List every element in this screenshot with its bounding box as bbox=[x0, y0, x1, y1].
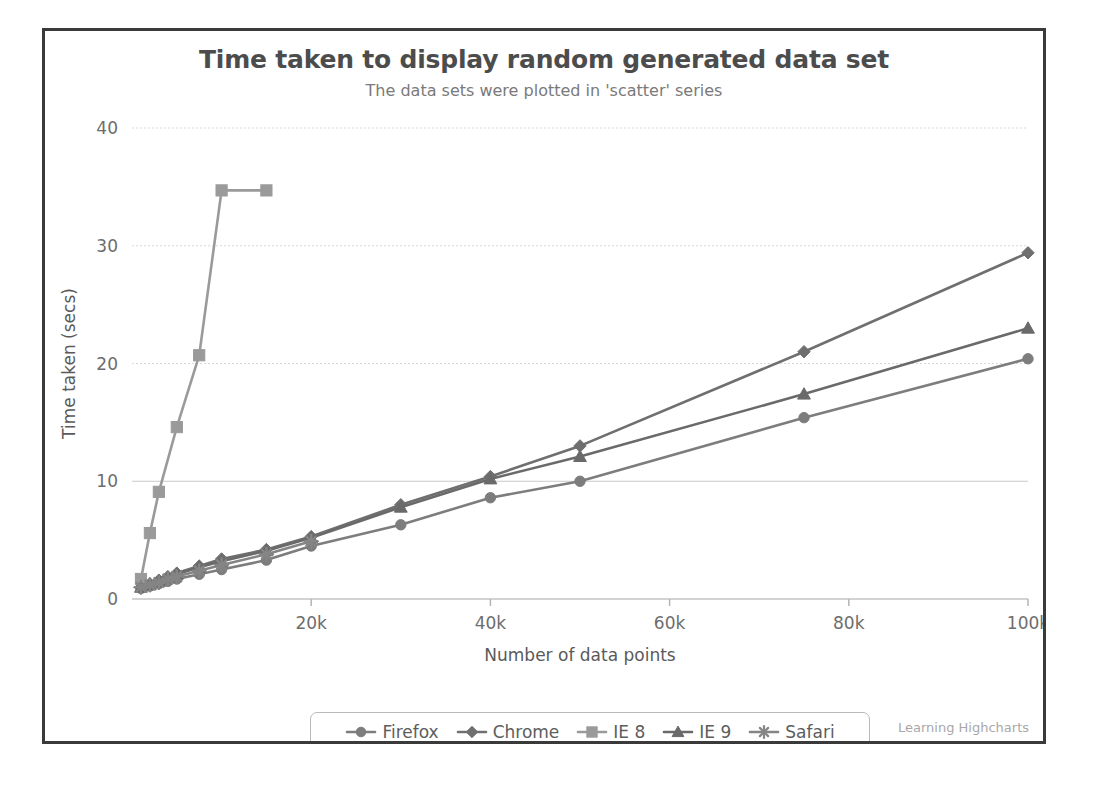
series-ie-8 bbox=[135, 185, 272, 585]
triangle-marker-icon bbox=[662, 723, 694, 741]
circle-marker-icon bbox=[345, 723, 377, 741]
legend-item-chrome[interactable]: Chrome bbox=[456, 722, 560, 741]
x-tick-labels: 20k40k60k80k100k bbox=[295, 613, 1043, 633]
square-marker-icon bbox=[576, 723, 608, 741]
legend-label: IE 8 bbox=[613, 722, 645, 741]
y-tick-labels: 010203040 bbox=[96, 118, 118, 609]
data-point-marker bbox=[798, 346, 810, 358]
legend-label: IE 9 bbox=[699, 722, 731, 741]
data-point-marker bbox=[261, 185, 272, 196]
x-axis-title: Number of data points bbox=[484, 645, 676, 665]
data-point-marker bbox=[215, 558, 228, 571]
legend-item-safari[interactable]: Safari bbox=[748, 722, 834, 741]
axes bbox=[132, 599, 1028, 606]
data-point-marker bbox=[305, 535, 318, 548]
data-point-marker bbox=[216, 185, 227, 196]
data-point-marker bbox=[1022, 247, 1034, 259]
data-point-marker bbox=[135, 581, 148, 594]
data-point-marker bbox=[260, 548, 273, 561]
data-point-marker bbox=[144, 527, 155, 538]
gridlines bbox=[132, 128, 1028, 481]
x-tick-label: 40k bbox=[475, 613, 507, 633]
legend-item-ie-9[interactable]: IE 9 bbox=[662, 722, 731, 741]
data-point-marker bbox=[153, 486, 164, 497]
legend-item-ie-8[interactable]: IE 8 bbox=[576, 722, 645, 741]
data-point-marker bbox=[144, 578, 157, 591]
y-tick-label: 0 bbox=[107, 589, 118, 609]
y-tick-label: 30 bbox=[96, 236, 118, 256]
data-point-marker bbox=[1022, 322, 1035, 333]
data-point-marker bbox=[194, 350, 205, 361]
legend-label: Firefox bbox=[382, 722, 438, 741]
chart-page: Time taken to display random generated d… bbox=[0, 0, 1093, 795]
x-tick-label: 60k bbox=[654, 613, 686, 633]
data-point-marker bbox=[171, 421, 182, 432]
data-point-marker bbox=[170, 570, 183, 583]
data-point-marker bbox=[575, 476, 585, 486]
plot-area: 010203040 20k40k60k80k100k Time taken (s… bbox=[45, 31, 1043, 741]
data-point-marker bbox=[799, 412, 809, 422]
diamond-marker-icon bbox=[456, 723, 488, 741]
y-tick-label: 40 bbox=[96, 118, 118, 138]
y-tick-label: 10 bbox=[96, 471, 118, 491]
legend-item-firefox[interactable]: Firefox bbox=[345, 722, 438, 741]
data-point-marker bbox=[485, 493, 495, 503]
x-tick-label: 100k bbox=[1007, 613, 1043, 633]
legend-label: Safari bbox=[785, 722, 834, 741]
x-tick-label: 20k bbox=[295, 613, 327, 633]
series-chrome bbox=[135, 247, 1034, 594]
data-point-marker bbox=[161, 573, 174, 586]
chart-inner: Time taken to display random generated d… bbox=[45, 31, 1043, 741]
x-tick-label: 80k bbox=[833, 613, 865, 633]
data-point-marker bbox=[193, 564, 206, 577]
y-axis-title: Time taken (secs) bbox=[59, 288, 79, 440]
star-marker-icon bbox=[748, 723, 780, 741]
y-tick-label: 20 bbox=[96, 354, 118, 374]
data-point-marker bbox=[396, 520, 406, 530]
watermark-label: Learning Highcharts bbox=[898, 720, 1029, 735]
chart-frame: Time taken to display random generated d… bbox=[42, 28, 1046, 744]
chart-legend[interactable]: FirefoxChromeIE 8IE 9Safari bbox=[310, 712, 870, 741]
data-point-marker bbox=[1023, 354, 1033, 364]
legend-label: Chrome bbox=[493, 722, 560, 741]
